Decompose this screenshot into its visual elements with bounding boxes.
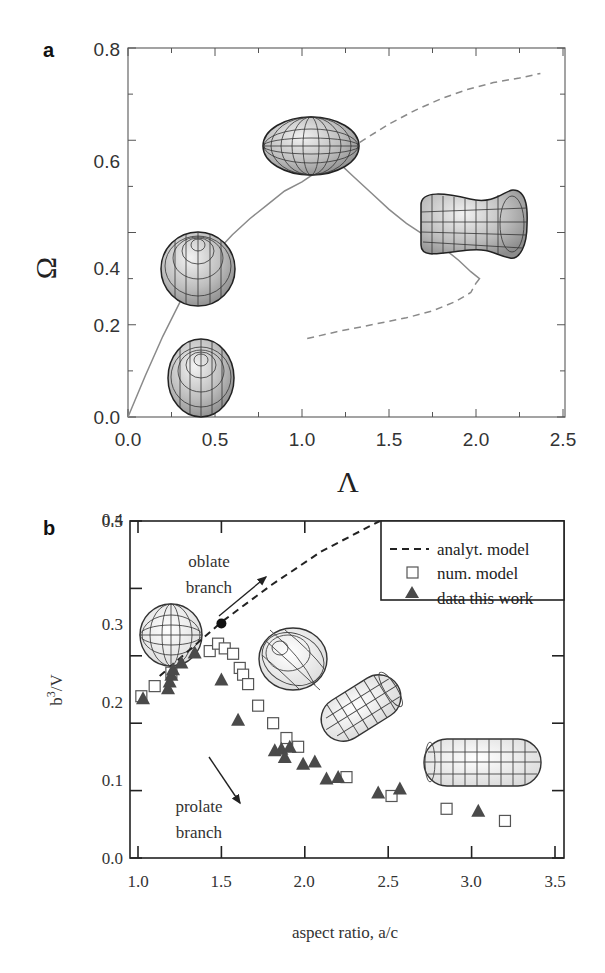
x-tick-label: 1.0 xyxy=(127,872,148,891)
y-axis-label-omega: Ω xyxy=(29,257,62,279)
num-model-point xyxy=(441,803,452,814)
curve-dashed xyxy=(307,283,476,338)
svg-text:b3/V: b3/V xyxy=(44,674,66,706)
num-model-point xyxy=(268,718,279,729)
y-tick-label: 0.1 xyxy=(102,771,123,790)
x-tick-label: 2.0 xyxy=(293,872,314,891)
oblate-branch-label-line2: branch xyxy=(186,578,233,597)
data-point xyxy=(393,782,407,795)
y-axis-label-b3v: b3/V xyxy=(44,674,66,706)
sphere-shape-icon-mid xyxy=(161,232,235,306)
num-model-point xyxy=(149,681,160,692)
num-model-point xyxy=(499,815,510,826)
oblate-branch-label-line1: oblate xyxy=(188,552,230,571)
y-tick-label: 0.6 xyxy=(94,151,120,172)
figure: a 0.0 0.2 0.4 0.6 0.8 0.0 0.5 1.0 1.5 2.… xyxy=(0,0,605,973)
legend-numeric-label: num. model xyxy=(437,564,518,583)
prolate-wireframe-icon xyxy=(313,667,409,750)
data-point xyxy=(214,672,228,685)
x-tick-label: 1.5 xyxy=(376,429,402,450)
x-tick-label: 2.5 xyxy=(550,429,576,450)
legend: analyt. model num. model data this work xyxy=(381,521,564,608)
panel-label-b: b xyxy=(43,517,55,539)
x-tick-label: 1.0 xyxy=(289,429,315,450)
legend-data-label: data this work xyxy=(437,589,534,608)
x-tick-label: 3.0 xyxy=(460,872,481,891)
legend-square-icon xyxy=(407,567,418,578)
dumbbell-shape-icon xyxy=(421,190,527,258)
panel-label-a: a xyxy=(43,39,55,61)
sphere-shape-icon-low xyxy=(168,339,234,417)
oblate-shape-icon xyxy=(263,117,359,175)
x-tick-label: 1.5 xyxy=(210,872,231,891)
x-tick-label: 0.0 xyxy=(115,429,141,450)
legend-analytic-label: analyt. model xyxy=(437,540,530,559)
y-tick-label: 0.2 xyxy=(102,693,123,712)
data-point xyxy=(308,755,322,768)
curve-dashed xyxy=(340,73,540,156)
y-label-rest: /V xyxy=(47,674,66,692)
x-axis-label-lambda: Λ xyxy=(337,465,359,498)
y-tick-label: 0.8 xyxy=(94,39,120,60)
prolate-branch-label-line2: branch xyxy=(176,823,223,842)
y-label-base: b xyxy=(47,697,66,706)
data-point xyxy=(296,757,310,770)
highlight-point xyxy=(216,618,226,628)
num-model-point xyxy=(253,700,264,711)
data-point xyxy=(231,713,245,726)
prolate-branch-label-line1: prolate xyxy=(175,797,222,816)
num-model-point xyxy=(243,679,254,690)
data-point xyxy=(319,771,333,784)
y-tick-label: 0.3 xyxy=(102,615,123,634)
panel-a: a 0.0 0.2 0.4 0.6 0.8 0.0 0.5 1.0 1.5 2.… xyxy=(29,39,576,498)
num-model-point xyxy=(228,648,239,659)
oblate-wireframe-icon xyxy=(253,623,332,695)
data-point xyxy=(371,786,385,799)
data-point xyxy=(471,804,485,817)
y-tick-label: 0.5 xyxy=(102,512,123,531)
x-tick-label: 2.5 xyxy=(377,872,398,891)
y-tick-label: 0.4 xyxy=(94,258,121,279)
y-tick-label: 0.0 xyxy=(102,849,123,868)
x-axis-label-aspect-ratio: aspect ratio, a/c xyxy=(292,923,399,942)
elongated-wireframe-icon xyxy=(424,739,541,786)
y-tick-label: 0.0 xyxy=(94,407,120,428)
x-tick-label: 2.0 xyxy=(463,429,489,450)
y-tick-label: 0.2 xyxy=(94,315,120,336)
panel-b: b 0.0 0.1 0.2 0.3 0.4 0.5 1.0 1.5 2.0 2.… xyxy=(43,510,566,942)
x-tick-label: 0.5 xyxy=(202,429,228,450)
x-tick-label: 3.5 xyxy=(544,872,565,891)
